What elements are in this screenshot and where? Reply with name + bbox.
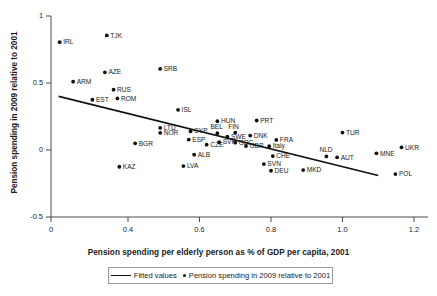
x-tick-label: 0 [37, 225, 65, 234]
data-point-marker [205, 143, 209, 147]
legend-item-points: Pension spending in 2009 relative to 200… [183, 271, 330, 280]
x-axis-title: Pension spending per elderly person as %… [0, 248, 437, 257]
data-point-label: NLD [319, 146, 332, 153]
data-point-marker [325, 155, 329, 159]
data-point-marker [335, 155, 339, 159]
data-point-marker [394, 172, 398, 176]
data-point-marker [400, 145, 404, 149]
data-point-marker [269, 169, 273, 173]
data-point-label: SVK [223, 138, 236, 145]
data-point-label: ALB [198, 151, 210, 158]
data-point-label: CZE [210, 141, 223, 148]
data-point-label: AZE [108, 68, 121, 75]
data-point-marker [117, 165, 121, 169]
data-point-label: IRL [63, 38, 73, 45]
x-tick-label: 1.2 [400, 225, 428, 234]
data-point-marker [112, 88, 116, 92]
data-point-label: LVA [187, 162, 198, 169]
legend-label-fitted-values: Fitted values [134, 271, 177, 280]
data-point-marker [158, 67, 162, 71]
data-point-label: BEL [210, 123, 222, 130]
data-point-marker [271, 154, 275, 158]
data-point-label: PRT [260, 117, 273, 124]
data-point-marker [71, 80, 75, 84]
data-point-label: DNK [254, 132, 268, 139]
data-point-label: TUR [346, 129, 360, 136]
data-point-marker [189, 129, 193, 133]
x-tick-label: 0.4 [114, 225, 142, 234]
data-point-marker [103, 70, 107, 74]
legend-label-points: Pension spending in 2009 relative to 200… [189, 271, 330, 280]
data-point-marker [182, 164, 186, 168]
data-point-label: CYP [194, 127, 208, 134]
data-point-marker [187, 138, 191, 142]
data-point-marker [176, 108, 180, 112]
data-point-label: FIN [228, 123, 239, 130]
data-point-label: ISL [182, 106, 192, 113]
data-point-marker [58, 40, 62, 44]
fitted-values-line [59, 96, 379, 175]
data-point-label: POL [399, 170, 412, 177]
data-point-marker [262, 162, 266, 166]
data-point-marker [267, 144, 271, 148]
line-swatch-icon [111, 275, 131, 276]
data-point-marker [90, 98, 94, 102]
data-point-label: RUS [117, 86, 131, 93]
data-point-label: ROM [121, 95, 136, 102]
data-point-marker [255, 119, 259, 123]
data-point-marker [375, 151, 379, 155]
data-point-label: ESP [192, 136, 205, 143]
data-point-label: MNE [380, 150, 395, 157]
data-point-label: NOR [164, 129, 179, 136]
y-axis-title: Pension spending in 2009 relative to 200… [10, 13, 19, 213]
data-point-label: KAZ [123, 163, 136, 170]
data-point-marker [248, 134, 252, 138]
data-point-marker [133, 141, 137, 145]
x-tick-label: 0.6 [186, 225, 214, 234]
data-point-marker [158, 131, 162, 135]
data-point-marker [341, 131, 345, 135]
data-point-label: TJK [110, 32, 122, 39]
y-tick-label: -0.5 [10, 212, 43, 221]
data-point-marker [105, 34, 109, 38]
data-point-label: CHE [276, 152, 290, 159]
data-point-marker [192, 153, 196, 157]
data-point-label: BGR [139, 140, 153, 147]
x-tick-label: 0.8 [257, 225, 285, 234]
data-point-marker [158, 126, 162, 130]
data-point-label: SRB [164, 65, 178, 72]
data-point-marker [301, 168, 305, 172]
x-tick-label: 1.0 [329, 225, 357, 234]
data-point-label: ARM [77, 78, 92, 85]
data-point-label: AUT [341, 154, 354, 161]
data-point-marker [116, 97, 120, 101]
data-point-label: UKR [405, 144, 419, 151]
legend-item-fitted-values: Fitted values [111, 271, 177, 280]
data-point-label: DEU [275, 167, 289, 174]
fitted-line [59, 96, 379, 175]
data-point-marker [274, 138, 278, 142]
data-point-label: MKD [307, 166, 322, 173]
scatter-chart: 00.40.60.81.01.210.50-0.5 IRLTJKARMAZESR… [0, 0, 437, 296]
axes [51, 16, 428, 217]
dot-swatch-icon [183, 274, 186, 277]
chart-legend: Fitted values Pension spending in 2009 r… [108, 267, 333, 284]
data-point-label: GBR [249, 142, 263, 149]
data-point-label: Italy [273, 142, 285, 149]
data-point-label: EST [96, 96, 109, 103]
data-point-marker [215, 131, 219, 135]
